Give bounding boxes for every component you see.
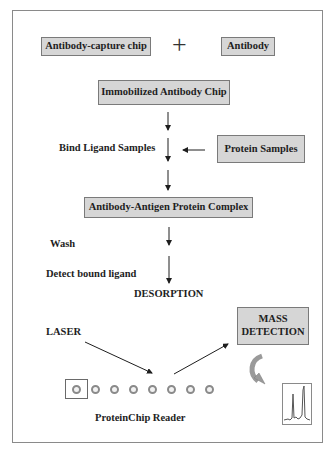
curved-arrow-icon (252, 356, 265, 384)
diagram-arrows (0, 0, 334, 455)
